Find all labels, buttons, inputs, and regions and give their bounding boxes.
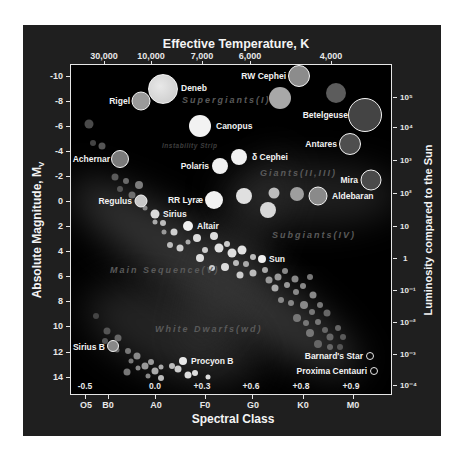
label-rigel: Rigel [109, 96, 130, 106]
star-deneb [148, 74, 178, 104]
mag-tick: 8 [58, 296, 63, 306]
background-star [192, 370, 198, 376]
label-sirius: Sirius [163, 209, 187, 219]
color-index-label: +0.3 [194, 381, 211, 391]
region-instability-strip: Instability Strip [162, 142, 217, 149]
background-star [134, 353, 141, 360]
background-star [117, 186, 123, 192]
mag-tick: -2 [55, 171, 63, 181]
region-white-dwarfs: White Dwarfs(wd) [155, 324, 263, 334]
background-star [340, 334, 346, 340]
top-axis-title: Effective Temperature, K [163, 37, 309, 51]
label-barnards-star: Barnard's Star [305, 351, 363, 361]
background-star [275, 274, 282, 281]
star-proxima [370, 367, 378, 375]
temp-tick: 30,000 [90, 51, 118, 61]
color-index-label: +0.9 [343, 381, 360, 391]
star-giant-4 [260, 202, 276, 218]
background-star [266, 277, 273, 284]
background-star [135, 181, 143, 189]
background-star [293, 314, 301, 322]
left-axis-title-text: Absolute Magnitude, M [30, 167, 44, 298]
temp-tick: 10,000 [137, 51, 165, 61]
mag-tick: -8 [55, 96, 63, 106]
star-delta-cephei [231, 149, 247, 165]
star-giant-1 [236, 188, 252, 204]
background-star [250, 270, 257, 277]
background-star [160, 220, 166, 226]
star-antares [339, 133, 361, 155]
label-procyon-b: Procyon B [191, 356, 234, 366]
star-giant-3 [290, 187, 304, 201]
background-star [303, 320, 309, 326]
background-star [337, 344, 343, 350]
color-index-label: -0.5 [78, 381, 93, 391]
label-antares: Antares [305, 139, 337, 149]
mag-tick: 6 [58, 271, 63, 281]
spectral-tick: F0 [200, 400, 211, 410]
star-sirius-b [107, 340, 119, 352]
region-supergiants: Supergiants(I) [182, 95, 271, 105]
background-star [185, 372, 192, 379]
tick-mark [393, 322, 397, 323]
background-star [153, 220, 158, 225]
background-star [322, 327, 328, 333]
temp-tick: 6,000 [239, 51, 262, 61]
tick-mark [393, 193, 397, 194]
background-star [237, 272, 244, 279]
temp-tick: 7,000 [191, 51, 214, 61]
label-betelgeuse: Betelgeuse [303, 110, 348, 120]
tick-mark [393, 97, 397, 98]
background-star [167, 242, 173, 248]
tick-mark [85, 395, 86, 399]
background-star [335, 325, 341, 331]
tick-mark [155, 395, 156, 399]
spectral-tick: K0 [297, 400, 309, 410]
background-star [148, 359, 154, 365]
star-rr-lyrae [205, 191, 223, 209]
star-barnards [366, 352, 374, 360]
lum-tick: 10⁵ [400, 93, 413, 102]
lum-tick: 10⁻³ [400, 350, 416, 359]
star-mira [361, 170, 382, 191]
tick-mark [393, 385, 397, 386]
mag-tick: 2 [58, 221, 63, 231]
star-sirius [151, 210, 160, 219]
star-polaris [212, 158, 228, 174]
label-sun: Sun [269, 254, 285, 264]
background-star [175, 366, 182, 373]
background-star [171, 229, 178, 236]
lum-tick: 10 [400, 222, 409, 231]
background-star [327, 334, 334, 341]
background-star [282, 268, 288, 274]
background-star [314, 340, 322, 348]
background-star [162, 230, 167, 235]
background-star [152, 368, 159, 375]
label-deneb: Deneb [181, 83, 207, 93]
background-star [104, 328, 111, 335]
region-subgiants: Subgiants(IV) [272, 230, 356, 240]
star-betelgeuse [348, 98, 382, 132]
lum-tick: 10⁴ [400, 123, 413, 132]
background-star [186, 240, 191, 245]
lum-tick: 10³ [400, 156, 412, 165]
background-star [215, 244, 224, 253]
label-proxima-centauri: Proxima Centauri [297, 366, 367, 376]
temp-tick: 4,000 [320, 51, 343, 61]
tick-mark [252, 395, 253, 399]
tick-mark [393, 258, 397, 259]
background-star [93, 313, 99, 319]
lum-tick: 10⁻¹ [400, 286, 416, 295]
color-index-label: +0.8 [293, 381, 310, 391]
color-index-label: +0.6 [243, 381, 260, 391]
mag-tick: 0 [58, 196, 63, 206]
background-star [243, 261, 249, 267]
background-star [238, 246, 247, 255]
right-axis-title: Luminosity compared to the Sun [422, 144, 434, 315]
star-altair [183, 221, 193, 231]
mag-tick: 10 [53, 321, 63, 331]
star-supergiant-m [326, 83, 346, 103]
background-star [221, 263, 229, 271]
label-rr-lyrae: RR Lyræ [168, 195, 203, 205]
background-star [228, 249, 237, 258]
